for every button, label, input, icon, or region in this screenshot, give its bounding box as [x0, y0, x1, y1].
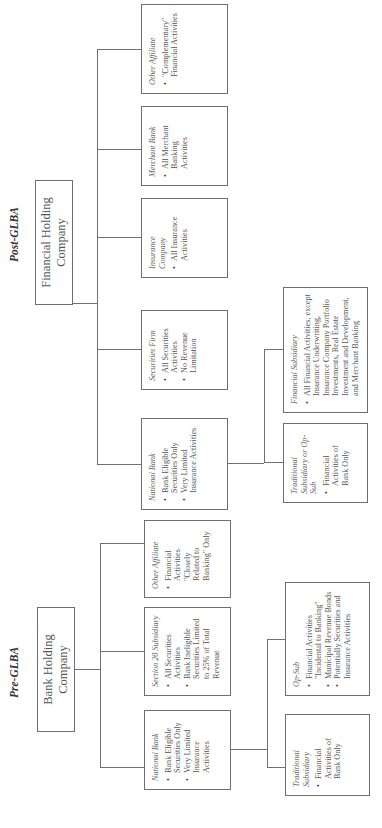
pre-drop-other-affiliate: [100, 543, 144, 544]
box-title: Section 20 Subsidiary: [151, 614, 161, 687]
box-title: Traditional Subsidiary or Op-Sub: [290, 430, 319, 494]
box-title: Securities Firm: [148, 317, 158, 381]
bullet: Municipal Revenue Bonds: [324, 589, 334, 687]
bullet: All Insurance Activities: [170, 205, 189, 269]
box-title: Traditional Subsidiary: [292, 721, 311, 787]
pre-root-connector: [75, 669, 100, 670]
post-insurance-company-box: Insurance Company All Insurance Activiti…: [141, 198, 228, 278]
pre-other-affiliate-box: Other Affiliate Financial Activities "Cl…: [144, 520, 231, 598]
post-drop-traditional: [264, 462, 283, 463]
box-title: Other Affiliate: [151, 527, 161, 589]
bullet: All Securities Activities: [164, 614, 183, 687]
post-root-connector: [73, 303, 97, 304]
pre-glba-label: Pre-GLBA: [8, 647, 20, 698]
bullet: All Securities Activities: [161, 317, 180, 381]
post-drop-insurance: [97, 237, 141, 238]
bullet: Potentially Securities and Insurance Act…: [333, 589, 352, 687]
glba-structure-diagram: Post-GLBA Financial Holding Company Nati…: [0, 0, 382, 828]
bullet: All Merchant Banking Activities: [161, 113, 190, 177]
post-bank-sub-connector: [228, 463, 264, 464]
bullet: Bank Eligible Securities Only: [161, 425, 180, 501]
pre-section20-subsidiary-box: Section 20 Subsidiary All Securities Act…: [144, 607, 231, 696]
bullet: Financial Activities of Bank Only: [322, 430, 351, 494]
post-securities-firm-box: Securities Firm All Securities Activitie…: [141, 310, 228, 390]
post-bank-sub-trunk: [264, 350, 265, 463]
post-trunk-line: [97, 50, 98, 465]
box-title: National Bank: [148, 425, 158, 501]
bullet: Bank Eligible Securities Only: [164, 717, 183, 781]
bullet: Financial Activities "Incidental to Bank…: [305, 589, 324, 687]
pre-drop-opsub: [267, 639, 285, 640]
box-title: Other Affiliate: [148, 11, 158, 85]
pre-drop-section20: [100, 651, 144, 652]
pre-drop-traditional: [267, 767, 285, 768]
pre-opsub-box: Op-Sub Financial Activities "Incidental …: [285, 582, 370, 696]
bhc-line2: Company: [56, 634, 71, 704]
box-title: Merchant Bank: [148, 113, 158, 177]
financial-holding-company-box: Financial Holding Company: [35, 180, 73, 305]
post-drop-merchant: [97, 149, 141, 150]
box-title: Financial Subsidiary: [290, 294, 300, 404]
bullet: Very Limited Insurance Activities: [183, 717, 212, 781]
fhc-line1: Financial Holding: [39, 197, 54, 288]
box-title: Insurance Company: [148, 205, 167, 269]
bullet: No Revenue Limitation: [180, 317, 199, 381]
pre-national-bank-box: National Bank Bank Eligible Securities O…: [144, 710, 231, 790]
bullet: Financial Activities "Closely Related to…: [164, 527, 212, 589]
post-drop-securities: [97, 349, 141, 350]
pre-bank-sub-connector: [231, 749, 267, 750]
post-other-affiliate-box: Other Affiliate "Complementary" Financia…: [141, 4, 228, 94]
post-drop-other-affiliate: [97, 49, 141, 50]
box-title: Op-Sub: [292, 589, 302, 687]
bullet: Financial Activities of Bank Only: [314, 721, 343, 787]
post-financial-subsidiary-box: Financial Subsidiary All Financial Activ…: [283, 287, 368, 413]
bank-holding-company-box: Bank Holding Company: [37, 607, 75, 732]
post-merchant-bank-box: Merchant Bank All Merchant Banking Activ…: [141, 106, 228, 186]
bullet: All Financial Activities, except Insuran…: [303, 294, 361, 404]
pre-drop-national-bank: [100, 767, 144, 768]
post-traditional-opsub-box: Traditional Subsidiary or Op-Sub Financi…: [283, 423, 368, 503]
post-glba-label: Post-GLBA: [8, 207, 20, 262]
fhc-line2: Company: [54, 197, 69, 288]
bullet: "Complementary" Financial Activities: [161, 11, 180, 85]
post-drop-national-bank: [97, 464, 141, 465]
bullet: Very Limited Insurance Activities: [180, 425, 199, 501]
post-national-bank-box: National Bank Bank Eligible Securities O…: [141, 418, 228, 510]
pre-traditional-subsidiary-box: Traditional Subsidiary Financial Activit…: [285, 714, 370, 796]
bhc-line1: Bank Holding: [41, 634, 56, 704]
pre-trunk-line: [100, 544, 101, 768]
post-drop-financial-sub: [264, 349, 283, 350]
bullet: Bank Ineligible Securities Limited to 25…: [183, 614, 221, 687]
box-title: National Bank: [151, 717, 161, 781]
pre-bank-sub-trunk: [267, 640, 268, 768]
